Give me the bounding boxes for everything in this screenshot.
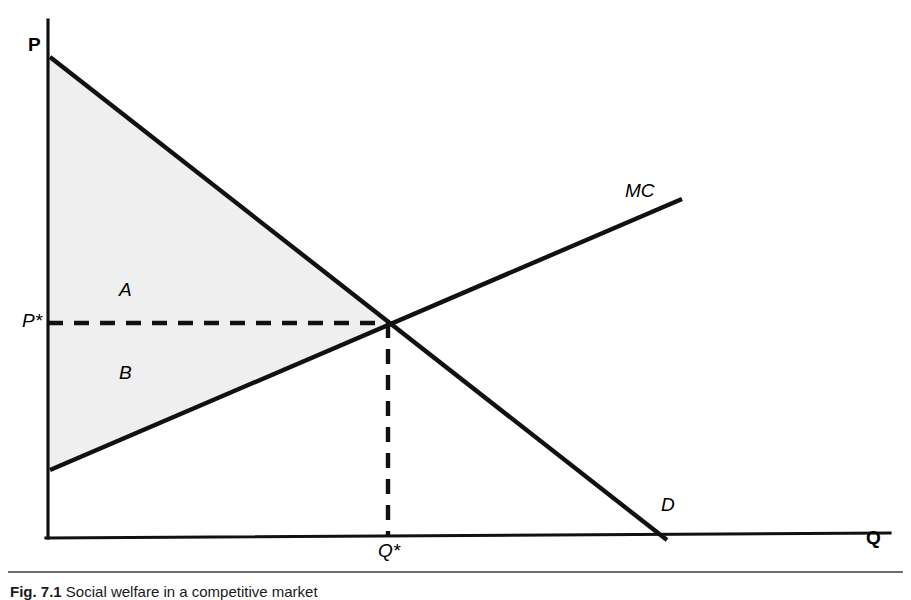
figure-caption: Fig. 7.1 Social welfare in a competitive… bbox=[10, 583, 900, 600]
supply-demand-diagram bbox=[0, 0, 911, 600]
equilibrium-quantity-label: Q* bbox=[378, 541, 400, 560]
x-axis bbox=[46, 533, 890, 538]
total-surplus-shading bbox=[48, 57, 387, 470]
caption-divider bbox=[8, 571, 903, 573]
figure-caption-text: Social welfare in a competitive market bbox=[66, 583, 318, 600]
x-axis-label-quantity: Q bbox=[866, 528, 881, 547]
marginal-cost-curve-label: MC bbox=[625, 181, 655, 200]
consumer-surplus-label: A bbox=[119, 280, 132, 299]
demand-curve-label: D bbox=[661, 495, 675, 514]
equilibrium-price-label: P* bbox=[22, 311, 42, 330]
producer-surplus-label: B bbox=[119, 363, 132, 382]
figure-caption-number: Fig. 7.1 bbox=[10, 583, 62, 600]
figure-container: un curve P Q MC D A B P* Q* Fig. 7.1 Soc… bbox=[0, 0, 911, 600]
y-axis-label-price: P bbox=[28, 35, 41, 54]
